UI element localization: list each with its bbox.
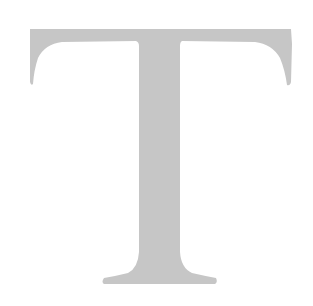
letter-canvas (0, 0, 313, 306)
letter-t-shape (30, 29, 292, 284)
letter-t-glyph (0, 0, 313, 306)
